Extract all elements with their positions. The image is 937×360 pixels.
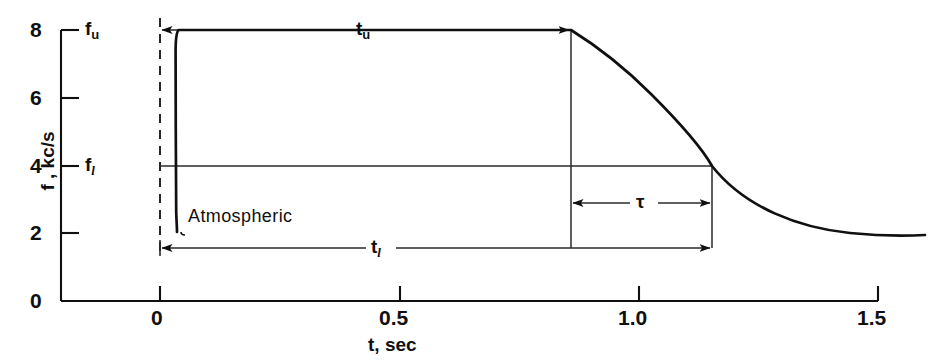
t-upper-annotation-label: tu [356, 18, 370, 40]
t-upper-subscript: u [362, 27, 370, 42]
y-tick-label-6: 6 [30, 86, 42, 110]
atmospheric-dispersion-chart: f , kc/s 8 6 4 2 0 fu fl 0 0.5 1.0 1.5 t… [0, 0, 937, 360]
x-axis [61, 286, 878, 301]
x-tick-label-1-5: 1.5 [857, 306, 886, 330]
f-lower-label: fl [85, 154, 95, 176]
t-lower-annotation-label: tl [371, 236, 381, 258]
x-tick-label-1-0: 1.0 [618, 306, 647, 330]
y-tick-label-2: 2 [30, 221, 42, 245]
f-upper-subscript: u [91, 27, 99, 42]
t-lower-dimension-arrow [160, 240, 710, 256]
y-tick-label-4: 4 [30, 154, 42, 178]
t-lower-subscript: l [377, 245, 381, 260]
chart-canvas [0, 0, 937, 360]
x-tick-label-0: 0 [151, 306, 163, 330]
atmospheric-curve-label: Atmospheric [188, 206, 292, 227]
y-tick-label-0: 0 [30, 289, 42, 313]
tau-annotation-label: τ [636, 191, 644, 213]
y-axis [61, 30, 79, 301]
x-tick-label-0-5: 0.5 [379, 306, 408, 330]
atmospheric-curve [176, 30, 925, 236]
atmospheric-callout-hook [181, 232, 185, 235]
y-tick-label-8: 8 [30, 18, 42, 42]
x-axis-title: t, sec [368, 334, 417, 356]
f-upper-label: fu [85, 18, 99, 40]
f-lower-subscript: l [91, 163, 95, 178]
